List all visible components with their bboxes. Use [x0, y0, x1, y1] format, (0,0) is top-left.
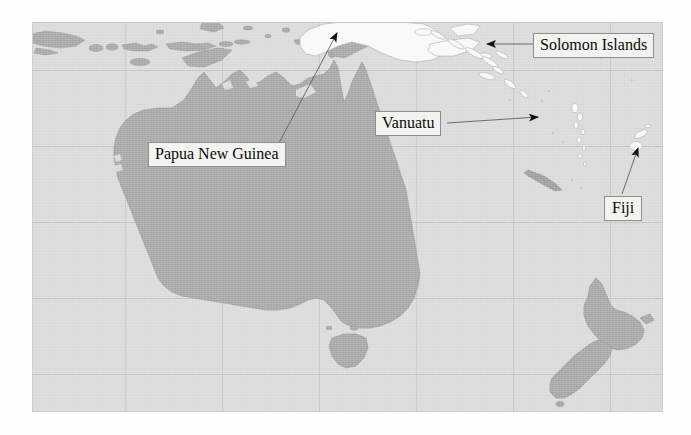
stewart-island: [556, 401, 564, 406]
map-geometry: [32, 22, 663, 412]
map-label-solomon-islands[interactable]: Solomon Islands: [533, 33, 654, 58]
map-canvas[interactable]: [32, 22, 663, 412]
island-wetar: [234, 40, 250, 44]
vanuatu-isl-8: [583, 162, 586, 166]
island-lombok: [106, 44, 118, 50]
flinders-island: [350, 326, 358, 330]
king-island: [326, 326, 332, 330]
island-alor: [219, 42, 233, 47]
map-label-vanuatu[interactable]: Vanuatu: [375, 111, 441, 136]
vanuatu-isl-4: [581, 129, 585, 135]
fiji-small-isl: [645, 124, 651, 127]
island-babar: [265, 34, 271, 38]
island-buru: [243, 26, 253, 30]
png-manus: [415, 29, 433, 36]
vanuatu-isl-7: [578, 153, 582, 158]
island-bali: [89, 44, 103, 51]
vanuatu-isl-5: [577, 137, 581, 143]
vanuatu-isl-6: [582, 146, 586, 151]
fiji-viti-levu: [630, 142, 643, 151]
island-kangean: [156, 30, 164, 34]
map-page: Papua New Guinea Solomon Islands Vanuatu…: [0, 0, 691, 435]
vanuatu-isl-1: [572, 104, 578, 113]
map-label-papua-new-guinea[interactable]: Papua New Guinea: [148, 142, 286, 167]
vanuatu-isl-2: [577, 113, 582, 121]
vanuatu-isl-3: [574, 122, 579, 129]
island-sumba: [130, 58, 150, 65]
island-tanimbar: [282, 28, 290, 32]
map-label-fiji[interactable]: Fiji: [604, 196, 642, 221]
